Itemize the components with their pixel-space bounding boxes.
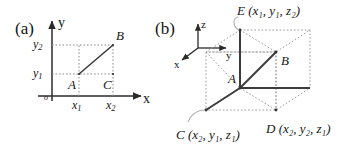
panel-b-leader-c xyxy=(188,110,205,122)
panel-b-segment-ab xyxy=(240,52,276,88)
panel-a-point-b xyxy=(112,44,114,46)
panel-b-x-axis xyxy=(182,48,198,60)
panel-a-tick-x1-subscript: 1 xyxy=(77,104,81,113)
panel-a-tick-x2: x2 xyxy=(106,99,116,113)
panel-a-axis-label-x: x xyxy=(143,92,150,106)
panel-a-tick-x1: x1 xyxy=(72,99,82,113)
panel-b-axis-label-y: y xyxy=(226,50,232,61)
panel-b-axis-label-x: x xyxy=(174,59,180,70)
panel-a-axis-label-y: y xyxy=(58,16,65,30)
panel-a-tick-y1: y1 xyxy=(33,67,43,81)
panel-b-point-b xyxy=(275,51,278,54)
panel-a-tick-y2: y2 xyxy=(33,38,43,52)
panel-a-origin-label: o xyxy=(44,94,48,102)
panel-a-graphics xyxy=(38,21,141,101)
panel-b-point-c xyxy=(205,109,208,112)
panel-b-callout-d: D (x₂, y₂, z₁) xyxy=(266,122,330,135)
panel-b-graphics xyxy=(182,17,310,122)
panel-b-point-a xyxy=(239,87,242,90)
panel-b-callout-e: E (x₁, y₁, z₂) xyxy=(237,4,300,17)
panel-b-label-b: B xyxy=(281,54,289,67)
panel-b-point-d xyxy=(275,109,278,112)
panel-a-label-c: C xyxy=(103,78,112,91)
panel-a-label-b: B xyxy=(116,29,124,42)
panel-a-segment-ab xyxy=(79,45,113,74)
panel-a-tick-y2-subscript: 2 xyxy=(38,43,42,52)
figure-container: (a) y x o y2 y1 x1 x2 A B C (b) z y x E … xyxy=(0,0,359,148)
panel-b-point-e xyxy=(239,29,242,32)
panel-b-tag: (b) xyxy=(155,20,175,37)
panel-b-leader-e xyxy=(234,17,239,30)
panel-a-tick-y1-subscript: 1 xyxy=(38,72,42,81)
panel-b-callout-c: C (x₂, y₁, z₁) xyxy=(176,128,240,141)
panel-a-label-a: A xyxy=(68,78,76,91)
panel-b-label-a: A xyxy=(228,72,236,85)
panel-b-axis-label-z: z xyxy=(201,19,206,30)
panel-a-point-c xyxy=(112,73,114,75)
panel-a-tag: (a) xyxy=(15,20,34,37)
panel-a-point-a xyxy=(78,73,80,75)
panel-b-segment-ac xyxy=(206,88,240,110)
panel-a-tick-x2-subscript: 2 xyxy=(111,104,115,113)
